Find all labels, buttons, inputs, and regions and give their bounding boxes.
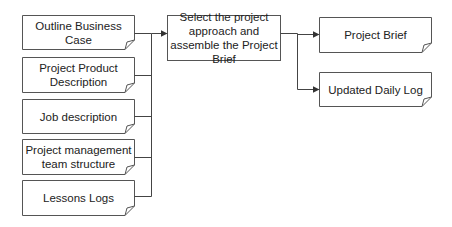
process-select-approach: Select the project approach and assemble… [168, 16, 280, 60]
input-lessons-logs: Lessons Logs [23, 181, 134, 215]
input-project-management-team-structure: Project management team structure [24, 140, 133, 174]
output-project-brief: Project Brief [320, 18, 431, 52]
input-outline-business-case: Outline Business Case [23, 16, 134, 49]
input-job-description: Job description [23, 100, 134, 133]
output-updated-daily-log: Updated Daily Log [320, 73, 431, 106]
input-project-product-description: Project Product Description [30, 58, 127, 92]
